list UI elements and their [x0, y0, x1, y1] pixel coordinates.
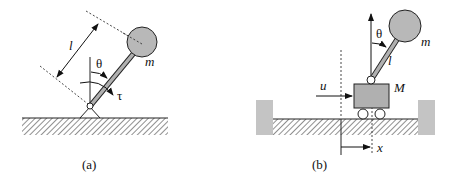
track-hatch: [273, 119, 418, 135]
cart-body: [354, 84, 389, 108]
figure-a-fixed-pendulum: l m θ τ (a): [22, 11, 168, 172]
torque-label: τ: [117, 88, 122, 103]
pendulum-bob: [389, 10, 421, 42]
figure-b-cart-pendulum: x u M l m θ (b): [256, 10, 435, 172]
cart-wheel-left: [358, 109, 368, 119]
position-label: x: [376, 140, 383, 155]
left-wall: [256, 100, 273, 135]
theta-label: θ: [376, 26, 382, 41]
length-dimension-arrow: [57, 24, 98, 77]
ground-hatch: [22, 118, 168, 135]
pivot-joint: [87, 103, 93, 109]
length-label: l: [69, 38, 73, 53]
force-label: u: [320, 78, 327, 93]
cart-wheel-right: [375, 109, 385, 119]
theta-arc-arrow: [372, 43, 386, 47]
cart-mass-label: M: [393, 80, 406, 95]
pendulum-bob: [127, 27, 157, 57]
caption-a: (a): [82, 157, 96, 172]
theta-arc-arrow: [91, 72, 107, 78]
pendulum-diagrams: l m θ τ (a) x u: [0, 0, 452, 182]
theta-label: θ: [96, 56, 102, 71]
right-wall: [418, 100, 435, 135]
mass-label: m: [421, 34, 430, 49]
mass-label: m: [145, 54, 154, 69]
length-label: l: [388, 53, 392, 68]
length-guide-lower: [40, 66, 88, 104]
caption-b: (b): [312, 157, 327, 172]
pivot-joint: [367, 76, 375, 84]
